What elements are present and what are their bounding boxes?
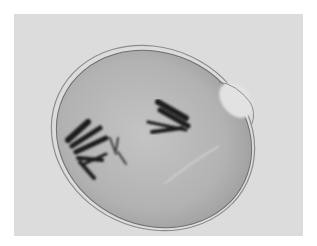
cell-body [27, 19, 281, 236]
cell-illustration [14, 14, 303, 236]
micrograph-photo [14, 14, 303, 236]
